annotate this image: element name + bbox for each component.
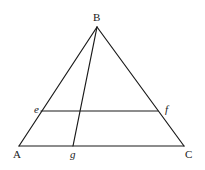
label-A: A	[13, 148, 21, 160]
label-g: g	[70, 148, 76, 160]
label-f: f	[165, 103, 170, 115]
segment-BC	[97, 27, 184, 146]
label-e: e	[34, 103, 39, 115]
label-B: B	[93, 11, 100, 23]
triangle-diagram: B A C e f g	[0, 0, 205, 170]
label-C: C	[185, 148, 192, 160]
